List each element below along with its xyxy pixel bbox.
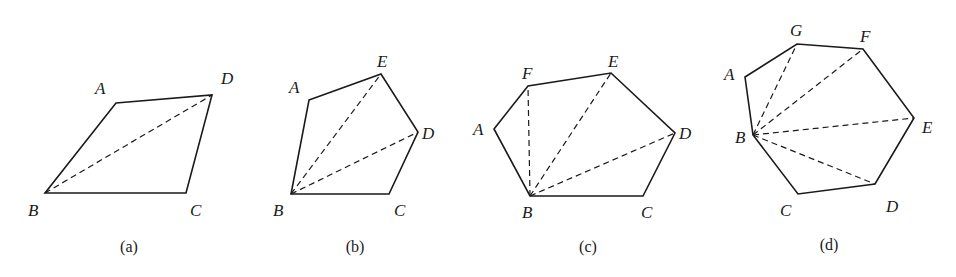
vertex-label-a: A [288, 78, 300, 97]
figure-caption: (a) [120, 238, 138, 256]
dashed-diagonal [291, 74, 381, 194]
vertex-label-b: B [28, 201, 39, 220]
figure-c-hexagon: AFEDBC(c) [472, 52, 692, 256]
vertex-label-a: A [723, 65, 735, 84]
vertex-label-e: E [921, 118, 933, 137]
vertex-label-d: D [678, 124, 692, 143]
vertex-label-f: F [521, 64, 533, 83]
vertex-label-c: C [641, 203, 653, 222]
vertex-label-e: E [607, 52, 619, 71]
dashed-diagonal [530, 73, 611, 196]
vertex-label-b: B [273, 201, 284, 220]
figure-caption: (b) [346, 238, 365, 256]
vertex-label-d: D [421, 124, 435, 143]
vertex-label-e: E [376, 52, 388, 71]
figure-d-heptagon: AGFEBDC(d) [723, 21, 933, 254]
figure-a-quadrilateral: ADBC(a) [28, 69, 234, 256]
dashed-diagonal [528, 86, 530, 196]
figure-b-pentagon: AEDBC(b) [273, 52, 435, 256]
vertex-label-g: G [790, 21, 802, 40]
figure-caption: (c) [579, 238, 597, 256]
polygon-outline [745, 44, 914, 194]
vertex-label-c: C [394, 201, 406, 220]
vertex-label-f: F [859, 27, 871, 46]
vertex-label-a: A [472, 120, 484, 139]
dashed-diagonal [753, 118, 914, 135]
polygon-outline [291, 74, 418, 194]
vertex-label-a: A [94, 79, 106, 98]
vertex-label-c: C [190, 201, 202, 220]
dashed-diagonal [45, 95, 212, 193]
dashed-diagonal [291, 132, 418, 194]
polygon-outline [494, 73, 675, 196]
polygon-triangulation-diagram: ADBC(a) AEDBC(b) AFEDBC(c) AGFEBDC(d) [0, 0, 956, 277]
vertex-label-d: D [220, 69, 234, 88]
vertex-label-c: C [780, 201, 792, 220]
vertex-label-b: B [735, 128, 746, 147]
figure-caption: (d) [820, 236, 839, 254]
vertex-label-d: D [885, 197, 899, 216]
vertex-label-b: B [522, 203, 533, 222]
dashed-diagonal [530, 133, 675, 196]
